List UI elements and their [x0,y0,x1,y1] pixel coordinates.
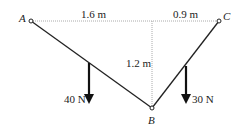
load-arrow-30n [181,66,191,104]
pin-a [29,19,33,23]
cable-diagram: A B C 1.6 m 0.9 m 1.2 m 40 N 30 N [0,0,243,130]
point-label-a: A [18,12,26,24]
point-label-c: C [223,10,231,22]
pin-b [150,106,154,110]
dimension-label-1-2m: 1.2 m [126,57,152,69]
pin-c [217,19,221,23]
dimension-label-0-9m: 0.9 m [173,8,199,20]
load-label-40n: 40 N [64,93,86,105]
dimension-label-1-6m: 1.6 m [81,8,107,20]
load-label-30n: 30 N [192,93,214,105]
point-label-b: B [148,114,155,126]
